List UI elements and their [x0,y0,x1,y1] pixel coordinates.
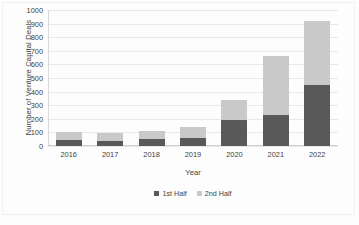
stacked-bar[interactable] [304,21,330,146]
y-axis-tick-label: 200 [31,114,43,123]
stacked-bar[interactable] [139,131,165,146]
y-axis-tick-label: 300 [31,101,43,110]
chart-container: Number of Venture Capital Deals 01002003… [0,0,359,225]
stacked-bar[interactable] [221,100,247,146]
bar-segment-2nd-half[interactable] [221,100,247,120]
x-axis-tick-label: 2021 [268,150,284,159]
chart-legend: 1st Half2nd Half [48,189,338,198]
y-axis-tick-label: 600 [31,60,43,69]
bar-segment-1st-half[interactable] [221,120,247,146]
bar-segment-1st-half[interactable] [180,138,206,146]
legend-swatch-icon [197,191,202,196]
x-axis-tick-label: 2018 [143,150,159,159]
legend-label: 2nd Half [205,189,232,198]
x-axis-tick-label: 2016 [60,150,76,159]
y-axis-tick-label: 1000 [27,6,43,15]
x-axis-tick-label: 2022 [309,150,325,159]
bar-group[interactable]: 2019 [175,10,211,146]
stacked-bar[interactable] [97,133,123,146]
y-axis-tick-label: 100 [31,128,43,137]
bar-segment-2nd-half[interactable] [180,127,206,138]
bar-series-group: 2016201720182019202020212022 [48,10,338,146]
y-axis-tick-label: 700 [31,46,43,55]
x-axis-title: Year [48,168,338,177]
bar-group[interactable]: 2016 [51,10,87,146]
legend-label: 1st Half [162,189,186,198]
bar-segment-1st-half[interactable] [56,140,82,146]
bar-segment-2nd-half[interactable] [97,133,123,140]
bar-group[interactable]: 2017 [92,10,128,146]
bar-group[interactable]: 2022 [299,10,335,146]
x-axis-tick-label: 2019 [185,150,201,159]
stacked-bar[interactable] [180,127,206,146]
y-axis-tick-label: 400 [31,87,43,96]
legend-swatch-icon [154,191,159,196]
bar-segment-1st-half[interactable] [139,139,165,146]
x-axis-tick-label: 2017 [102,150,118,159]
legend-item[interactable]: 1st Half [154,189,186,198]
bar-group[interactable]: 2021 [258,10,294,146]
bar-segment-1st-half[interactable] [263,115,289,146]
plot-area: 01002003004005006007008009001000 2016201… [48,10,338,146]
bar-group[interactable]: 2020 [216,10,252,146]
y-axis-tick-label: 500 [31,74,43,83]
bar-group[interactable]: 2018 [133,10,169,146]
bar-segment-2nd-half[interactable] [139,131,165,138]
bar-segment-2nd-half[interactable] [56,132,82,139]
y-axis-tick-label: 900 [31,19,43,28]
bar-segment-1st-half[interactable] [97,141,123,146]
y-axis-tick-label: 0 [39,142,43,151]
bar-segment-1st-half[interactable] [304,85,330,146]
bar-segment-2nd-half[interactable] [263,56,289,114]
stacked-bar[interactable] [263,56,289,146]
bar-segment-2nd-half[interactable] [304,21,330,85]
gridline [48,146,338,147]
stacked-bar[interactable] [56,132,82,146]
y-axis-tick-label: 800 [31,33,43,42]
legend-item[interactable]: 2nd Half [197,189,232,198]
x-axis-tick-label: 2020 [226,150,242,159]
